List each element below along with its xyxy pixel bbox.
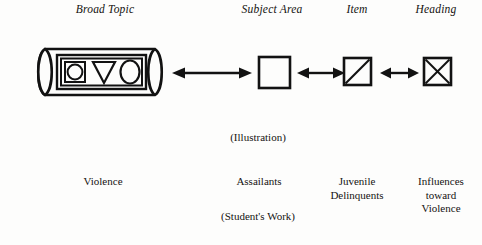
example-label-assailants: Assailants [236,175,281,189]
arrowhead-left [380,68,391,79]
example-label-violence: Violence [83,175,122,189]
caption-students-work: (Student's Work) [221,210,295,223]
node-heading-square-x [424,58,451,85]
example-label-influences: Influences toward Violence [418,175,464,216]
subject-square [259,57,290,88]
node-item-square-diagonal [344,58,371,85]
node-subject-area-square [259,57,290,88]
arrowhead-left [172,68,185,79]
example-label-juvenile: Juvenile Delinquents [330,175,383,202]
diagram-page: Broad Topic Subject Area Item Heading [0,0,482,245]
node-broad-topic-cylinder [38,49,162,95]
connector-broad-to-subject [172,68,252,79]
arrowhead-left [297,68,309,79]
diagram-canvas [0,0,482,245]
connector-subject-to-item [297,68,345,79]
arrowhead-right [408,68,419,79]
caption-illustration: (Illustration) [230,131,286,144]
connector-item-to-heading [380,68,419,79]
cylinder-left-cap [38,49,52,95]
arrowhead-right [239,68,252,79]
